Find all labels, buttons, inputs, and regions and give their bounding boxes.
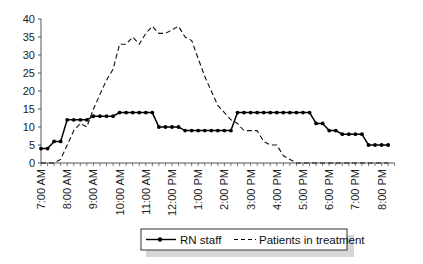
rn-staff-marker	[203, 129, 207, 133]
x-tick-label: 8:00 PM	[376, 169, 388, 210]
y-tick-label: 15	[23, 103, 35, 115]
x-tick-label: 7:00 AM	[35, 169, 47, 209]
x-tick-label: 9:00 AM	[87, 169, 99, 209]
rn-staff-marker	[347, 132, 351, 136]
y-tick-label: 10	[23, 121, 35, 133]
rn-staff-marker	[386, 143, 390, 147]
rn-staff-marker	[242, 111, 246, 115]
rn-staff-marker	[249, 111, 253, 115]
y-tick-label: 5	[29, 139, 35, 151]
rn-staff-marker	[183, 129, 187, 133]
rn-staff-marker	[236, 111, 240, 115]
rn-staff-marker	[354, 132, 358, 136]
y-tick-label: 35	[23, 31, 35, 43]
x-tick-label: 11:00 AM	[140, 169, 152, 215]
x-tick-label: 5:00 PM	[297, 169, 309, 210]
rn-staff-marker	[144, 111, 148, 115]
rn-staff-marker	[85, 118, 89, 122]
rn-staff-marker	[367, 143, 371, 147]
rn-staff-marker	[111, 114, 115, 118]
plot-area	[39, 26, 390, 163]
rn-staff-marker	[78, 118, 82, 122]
rn-staff-marker	[334, 129, 338, 133]
rn-staff-marker	[150, 111, 154, 115]
x-tick-label: 3:00 PM	[245, 169, 257, 210]
rn-staff-marker	[288, 111, 292, 115]
rn-staff-marker	[39, 147, 43, 151]
rn-staff-marker	[65, 118, 69, 122]
rn-staff-marker	[59, 140, 63, 144]
legend-label-rn-staff: RN staff	[180, 234, 222, 246]
x-tick-label: 8:00 AM	[61, 169, 73, 209]
rn-staff-marker	[137, 111, 141, 115]
x-axis: 7:00 AM8:00 AM9:00 AM10:00 AM11:00 AM12:…	[35, 163, 395, 216]
x-tick-label: 6:00 PM	[323, 169, 335, 210]
rn-staff-marker	[275, 111, 279, 115]
x-tick-label: 1:00 PM	[192, 169, 204, 210]
rn-staff-marker	[124, 111, 128, 115]
legend: RN staff Patients in treatment	[141, 229, 365, 257]
rn-staff-marker	[131, 111, 135, 115]
rn-staff-marker	[223, 129, 227, 133]
rn-staff-marker	[105, 114, 109, 118]
rn-staff-marker	[360, 132, 364, 136]
y-tick-label: 0	[29, 157, 35, 169]
line-chart: 0510152025303540 7:00 AM8:00 AM9:00 AM10…	[0, 0, 423, 264]
rn-staff-marker	[314, 122, 318, 126]
rn-staff-marker	[373, 143, 377, 147]
rn-staff-marker	[262, 111, 266, 115]
y-tick-label: 20	[23, 85, 35, 97]
y-axis: 0510152025303540	[23, 13, 41, 169]
rn-staff-marker	[52, 140, 56, 144]
rn-staff-marker	[308, 111, 312, 115]
rn-staff-marker	[255, 111, 259, 115]
x-tick-label: 2:00 PM	[218, 169, 230, 210]
x-tick-label: 4:00 PM	[271, 169, 283, 210]
rn-staff-marker	[92, 114, 96, 118]
legend-label-patients: Patients in treatment	[259, 234, 365, 246]
rn-staff-marker	[340, 132, 344, 136]
rn-staff-marker	[321, 122, 325, 126]
x-tick-label: 12:00 PM	[166, 169, 178, 216]
x-tick-label: 10:00 AM	[114, 169, 126, 215]
rn-staff-marker	[216, 129, 220, 133]
y-tick-label: 25	[23, 67, 35, 79]
rn-staff-marker	[177, 125, 181, 129]
rn-staff-marker	[157, 125, 161, 129]
rn-staff-marker	[46, 147, 50, 151]
y-tick-label: 40	[23, 13, 35, 25]
rn-staff-marker	[380, 143, 384, 147]
rn-staff-marker	[327, 129, 331, 133]
rn-staff-marker	[98, 114, 102, 118]
rn-staff-marker	[229, 129, 233, 133]
rn-staff-marker	[281, 111, 285, 115]
rn-staff-marker	[209, 129, 213, 133]
diamond-marker-icon	[158, 237, 162, 241]
x-tick-label: 7:00 PM	[349, 169, 361, 210]
rn-staff-marker	[301, 111, 305, 115]
rn-staff-marker	[190, 129, 194, 133]
rn-staff-marker	[170, 125, 174, 129]
rn-staff-marker	[268, 111, 272, 115]
rn-staff-marker	[118, 111, 122, 115]
rn-staff-marker	[196, 129, 200, 133]
series-patients-in-treatment	[41, 26, 388, 163]
rn-staff-marker	[295, 111, 299, 115]
y-tick-label: 30	[23, 49, 35, 61]
rn-staff-marker	[164, 125, 168, 129]
rn-staff-marker	[72, 118, 76, 122]
